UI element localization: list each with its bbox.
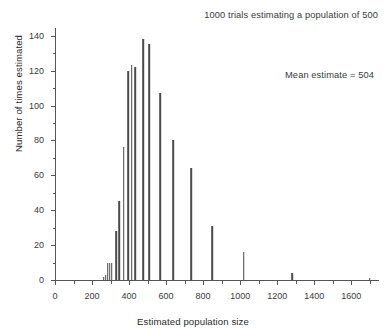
bar (127, 71, 129, 280)
bar (291, 273, 293, 280)
x-tick-label-0: 0 (52, 291, 57, 301)
x-tick-label-800: 800 (196, 291, 211, 301)
x-tick-minor-1100 (259, 281, 260, 284)
y-tick-minor-90 (53, 123, 56, 124)
x-tick-minor-300 (111, 281, 112, 284)
x-tick-label-1000: 1000 (230, 291, 250, 301)
bar (190, 168, 192, 280)
bar (119, 201, 121, 280)
bar (369, 278, 371, 280)
x-tick-1000: 1000 (240, 281, 241, 285)
x-tick-minor-1700 (370, 281, 371, 284)
x-tick-label-1400: 1400 (304, 291, 324, 301)
x-tick-minor-1300 (296, 281, 297, 284)
y-tick-label-0: 0 (39, 275, 44, 285)
y-tick-label-40: 40 (34, 205, 44, 215)
y-tick-100: 100 (51, 106, 55, 107)
x-tick-600: 600 (166, 281, 167, 285)
y-axis-title: Number of times estimated (13, 4, 24, 184)
x-axis-line (55, 280, 379, 281)
bar (159, 93, 161, 280)
bar (143, 39, 145, 280)
y-tick-60: 60 (51, 175, 55, 176)
x-tick-minor-100 (74, 281, 75, 284)
x-tick-minor-1500 (333, 281, 334, 284)
bar (115, 231, 117, 280)
y-tick-label-100: 100 (29, 101, 44, 111)
y-tick-20: 20 (51, 245, 55, 246)
y-tick-label-80: 80 (34, 135, 44, 145)
y-tick-minor-130 (53, 53, 56, 54)
y-tick-label-120: 120 (29, 66, 44, 76)
x-tick-minor-500 (148, 281, 149, 284)
histogram-figure: 1000 trials estimating a population of 5… (0, 0, 386, 332)
y-tick-label-60: 60 (34, 170, 44, 180)
y-tick-140: 140 (51, 36, 55, 37)
y-tick-minor-110 (53, 88, 56, 89)
chart-title: 1000 trials estimating a population of 5… (204, 10, 378, 20)
x-tick-label-200: 200 (85, 291, 100, 301)
y-tick-40: 40 (51, 210, 55, 211)
x-tick-label-1600: 1600 (341, 291, 361, 301)
bar (149, 44, 151, 280)
y-axis-line (55, 28, 56, 281)
x-tick-800: 800 (203, 281, 204, 285)
bar (212, 226, 214, 280)
x-tick-0: 0 (55, 281, 56, 285)
y-tick-120: 120 (51, 71, 55, 72)
bar (243, 252, 245, 280)
x-tick-1200: 1200 (277, 281, 278, 285)
x-tick-minor-900 (222, 281, 223, 284)
y-tick-minor-70 (53, 158, 56, 159)
plot-area: 020406080100120140 020040060080010001200… (55, 28, 379, 281)
x-axis-title: Estimated population size (0, 316, 386, 327)
x-tick-minor-700 (185, 281, 186, 284)
bar (173, 140, 175, 280)
y-tick-minor-50 (53, 193, 56, 194)
bar (111, 263, 113, 280)
bar (123, 147, 125, 280)
bar (131, 65, 133, 280)
y-tick-minor-30 (53, 228, 56, 229)
x-tick-1400: 1400 (314, 281, 315, 285)
x-tick-400: 400 (129, 281, 130, 285)
x-tick-label-1200: 1200 (267, 291, 287, 301)
bar (134, 67, 136, 280)
x-tick-200: 200 (92, 281, 93, 285)
y-tick-label-140: 140 (29, 31, 44, 41)
x-tick-label-400: 400 (122, 291, 137, 301)
x-tick-label-600: 600 (159, 291, 174, 301)
y-tick-80: 80 (51, 140, 55, 141)
x-tick-1600: 1600 (351, 281, 352, 285)
y-tick-label-20: 20 (34, 240, 44, 250)
y-tick-minor-10 (53, 263, 56, 264)
